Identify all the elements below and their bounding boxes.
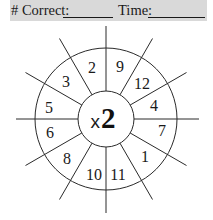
sector-number: 9 (116, 58, 124, 75)
sector-number: 8 (63, 150, 71, 167)
sector-number: 3 (62, 73, 70, 90)
sector-number: 11 (110, 166, 125, 183)
multiplier-value: 2 (101, 102, 116, 134)
spoke (26, 73, 82, 106)
sector-number: 5 (45, 99, 53, 116)
sector-number: 10 (86, 166, 102, 183)
sector-number: 1 (141, 148, 149, 165)
multiply-operator: x (91, 111, 101, 132)
multiplication-wheel: x 2 4 12 9 2 3 5 6 8 10 11 1 7 (0, 0, 213, 220)
sector-number: 2 (88, 59, 96, 76)
sector-number: 4 (150, 97, 158, 114)
sector-number: 12 (134, 75, 150, 92)
sector-number: 7 (158, 122, 166, 139)
sector-number: 6 (46, 124, 54, 141)
